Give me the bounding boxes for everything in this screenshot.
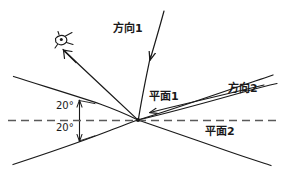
ray-endpoint-marker <box>55 32 73 49</box>
label-plane-2: 平面2 <box>205 126 235 137</box>
vertex-point <box>136 118 140 122</box>
plane-1-line-left <box>14 77 139 121</box>
incident-ray-direction-1 <box>150 11 164 60</box>
label-direction-1: 方向1 <box>113 23 143 34</box>
plane-2-line-left <box>13 120 138 165</box>
label-direction-2: 方向2 <box>228 83 258 94</box>
label-plane-1: 平面1 <box>149 91 179 102</box>
angle-arc-lower <box>79 136 95 141</box>
reflected-ray-arrowhead <box>64 50 77 62</box>
incident-ray-direction-1-lower <box>138 56 150 119</box>
reflection-diagram: 方向1 方向2 平面1 平面2 20° 20° <box>0 0 284 182</box>
label-angle-upper: 20° <box>56 101 74 111</box>
label-angle-lower: 20° <box>56 123 74 133</box>
